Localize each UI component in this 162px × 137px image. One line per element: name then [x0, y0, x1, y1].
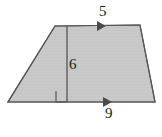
trapezoid-texture [8, 25, 155, 102]
label-base-side: 9 [105, 106, 113, 121]
geometry-figure: 5 6 9 [0, 0, 162, 137]
label-top-side: 5 [99, 4, 107, 19]
trapezoid-diagram [0, 0, 162, 137]
label-height: 6 [69, 57, 77, 72]
